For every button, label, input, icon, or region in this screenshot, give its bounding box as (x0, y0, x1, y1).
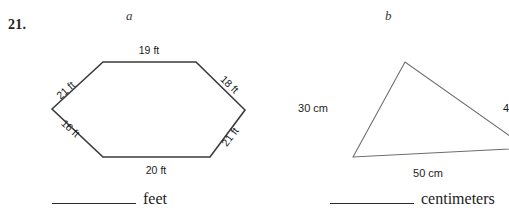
hexagon-side-label-lower-right: 21 ft (219, 125, 241, 149)
hexagon-side-label-upper-right: 18 ft (218, 73, 241, 96)
answer-unit-centimeters: centimeters (421, 190, 495, 208)
worksheet-page: 21. a b 19 ft 21 ft 16 ft 18 ft 21 ft 20… (0, 0, 509, 222)
hexagon-side-label-upper-left: 21 ft (54, 79, 77, 102)
answer-row-feet: feet (52, 190, 167, 208)
triangle-side-label-bottom: 50 cm (413, 167, 443, 179)
hexagon-side-label-bottom: 20 ft (146, 164, 167, 176)
hexagon-side-label-lower-left: 16 ft (59, 117, 82, 140)
hexagon-figure: 19 ft 21 ft 16 ft 18 ft 21 ft 20 ft (0, 0, 260, 185)
triangle-side-label-left: 30 cm (298, 102, 328, 114)
hexagon-outline (52, 62, 245, 157)
triangle-side-label-right: 40 (503, 102, 509, 114)
hexagon-side-label-top: 19 ft (139, 44, 160, 56)
answer-row-centimeters: centimeters (330, 190, 495, 208)
answer-blank-centimeters[interactable] (330, 190, 414, 204)
triangle-figure: 30 cm 40 50 cm (255, 0, 509, 185)
answer-unit-feet: feet (143, 190, 167, 208)
answer-blank-feet[interactable] (52, 190, 136, 204)
triangle-outline (353, 62, 509, 157)
